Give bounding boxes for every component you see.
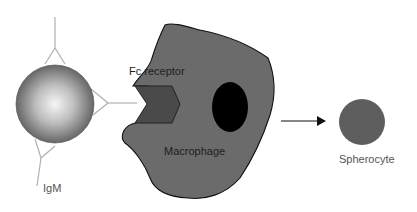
fc-receptor [135,86,180,123]
macrophage-label: Macrophage [164,145,225,157]
transformation-arrow [281,116,326,126]
spherocyte-cell [339,99,385,145]
fc-receptor-label: Fc receptor [129,65,185,77]
igm-bottom-right [41,146,55,158]
igm-top [45,17,55,64]
igm-top-right [55,48,65,64]
red-blood-cell [16,65,94,143]
igm-label: IgM [43,182,61,194]
igm-right-lower [93,103,108,115]
igm-bottom [37,158,41,186]
spherocyte-label: Spherocyte [339,153,395,165]
diagram-canvas [0,0,417,212]
nucleus [212,82,248,132]
igm-bottom-left [35,139,41,158]
